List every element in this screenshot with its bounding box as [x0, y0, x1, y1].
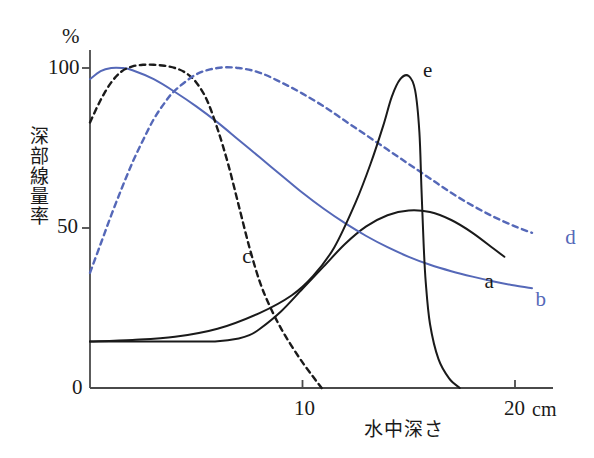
y-tick-label-100: 100	[48, 57, 80, 78]
curve-label-b: b	[536, 289, 547, 310]
curve-label-e: e	[423, 60, 432, 81]
x-tick-label-10: 10	[294, 398, 315, 419]
axes-layer	[82, 50, 553, 388]
curve-b	[90, 68, 532, 289]
chart-figure: % 100 50 0 深部線量率 10 20 cm 水中深さ a b c d e	[0, 0, 594, 458]
y-tick-label-50: 50	[57, 216, 78, 237]
plot-canvas	[0, 0, 594, 458]
x-axis-title: 水中深さ	[364, 420, 444, 439]
y-tick-label-0: 0	[72, 377, 83, 398]
curve-label-d: d	[565, 227, 576, 248]
x-axis-unit-label: cm	[532, 399, 556, 419]
y-axis-title: 深部線量率	[28, 126, 47, 226]
curve-label-a: a	[485, 271, 494, 292]
curve-a	[90, 210, 504, 341]
y-axis-unit-label: %	[62, 26, 80, 47]
curve-d	[90, 67, 532, 273]
curves-layer	[90, 65, 532, 388]
x-tick-label-20: 20	[504, 398, 525, 419]
curve-label-c: c	[242, 246, 251, 267]
